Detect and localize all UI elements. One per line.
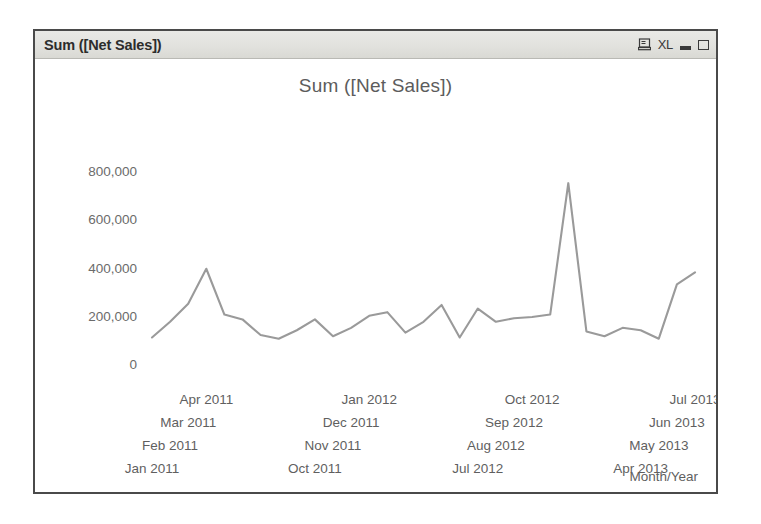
x-axis-tick-label: Apr 2011	[179, 392, 233, 407]
y-axis: 0200,000400,000600,000800,000	[88, 164, 137, 372]
x-axis-tick-label: Feb 2011	[142, 438, 198, 453]
x-axis-tick-label: Jan 2012	[341, 392, 397, 407]
window-title: Sum ([Net Sales])	[44, 37, 162, 53]
maximize-icon	[698, 40, 709, 50]
x-axis-tick-label: Nov 2011	[305, 438, 362, 453]
x-axis-tick-label: Aug 2012	[467, 438, 525, 453]
x-axis-tick-label: Oct 2011	[288, 461, 342, 476]
excel-export-button[interactable]: XL	[658, 37, 673, 52]
data-series-line	[152, 183, 695, 339]
x-axis-tick-label: Mar 2011	[160, 415, 216, 430]
x-axis-tick-label: Jun 2013	[649, 415, 705, 430]
x-axis-tick-label: May 2013	[629, 438, 688, 453]
minimize-icon	[680, 46, 691, 50]
minimize-button[interactable]	[680, 40, 691, 50]
x-axis: Jan 2011Feb 2011Mar 2011Apr 2011Oct 2011…	[125, 392, 716, 476]
monitor-export-icon[interactable]	[638, 38, 651, 51]
x-axis-tick-label: Oct 2012	[505, 392, 560, 407]
x-axis-tick-label: Sep 2012	[485, 415, 543, 430]
y-axis-tick-label: 800,000	[88, 164, 137, 179]
x-axis-title: Month/Year	[629, 469, 698, 484]
y-axis-tick-label: 200,000	[88, 309, 137, 324]
chart-window: Sum ([Net Sales]) XL Sum ([Net Sales])	[33, 29, 718, 494]
y-axis-tick-label: 400,000	[88, 261, 137, 276]
line-plot[interactable]: 0200,000400,000600,000800,000 Jan 2011Fe…	[35, 59, 716, 492]
window-title-bar: Sum ([Net Sales]) XL	[35, 31, 716, 59]
x-axis-tick-label: Jul 2013	[669, 392, 716, 407]
chart-canvas[interactable]: Sum ([Net Sales]) 0200,000400,000600,000…	[35, 59, 716, 492]
x-axis-tick-label: Jan 2011	[125, 461, 180, 476]
maximize-button[interactable]	[698, 40, 709, 50]
window-controls: XL	[638, 37, 709, 52]
y-axis-tick-label: 600,000	[88, 212, 137, 227]
x-axis-tick-label: Jul 2012	[452, 461, 503, 476]
x-axis-tick-label: Dec 2011	[323, 415, 380, 430]
y-axis-tick-label: 0	[129, 357, 137, 372]
